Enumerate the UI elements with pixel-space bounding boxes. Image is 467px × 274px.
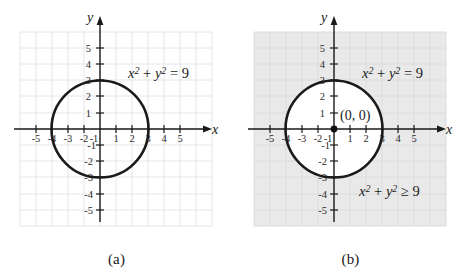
x-tick-label: 5 <box>177 133 182 144</box>
x-tick-label: 1 <box>347 133 352 144</box>
y-axis-label: y <box>319 10 328 25</box>
y-tick-label: 1 <box>320 108 325 119</box>
x-tick-label: 4 <box>395 133 401 144</box>
plot-area-b: -5 -4 -3 -2 -1 1 2 3 4 5 5 4 3 2 1 -1 -2… <box>234 0 467 250</box>
panel-a: -5 -4 -3 -2 -1 1 2 3 4 5 5 4 3 2 1 -1 -2… <box>0 0 233 274</box>
circle-equation-a: x2 + y2 = 9 <box>127 65 189 82</box>
y-tick-label: 2 <box>86 91 91 102</box>
x-tick-label: -3 <box>298 133 307 144</box>
origin-point-marker <box>331 126 338 133</box>
y-tick-label: 4 <box>320 59 326 70</box>
x-tick-label: 2 <box>129 133 134 144</box>
plot-area-a: -5 -4 -3 -2 -1 1 2 3 4 5 5 4 3 2 1 -1 -2… <box>0 0 233 250</box>
x-axis-arrow-a <box>203 126 212 133</box>
y-tick-label: -2 <box>84 156 93 167</box>
origin-point-label: (0, 0) <box>340 108 371 124</box>
x-tick-label: -5 <box>32 133 41 144</box>
x-tick-label: -5 <box>266 133 275 144</box>
x-tick-label: -3 <box>64 133 73 144</box>
y-axis-arrow-b <box>331 16 338 25</box>
x-tick-label: 5 <box>411 133 416 144</box>
figure-two-panel-circle-graphs: -5 -4 -3 -2 -1 1 2 3 4 5 5 4 3 2 1 -1 -2… <box>0 0 467 274</box>
y-axis-arrow-a <box>97 16 104 25</box>
y-tick-label: -1 <box>87 140 96 151</box>
y-tick-label: -4 <box>84 189 93 200</box>
y-tick-label: 1 <box>86 108 91 119</box>
y-tick-label: 5 <box>320 43 325 54</box>
axes-a <box>14 22 206 222</box>
y-tick-label: 4 <box>86 59 92 70</box>
y-tick-label: -2 <box>318 156 327 167</box>
y-tick-label: -5 <box>318 205 327 216</box>
svg-text:x2 + y2 = 9: x2 + y2 = 9 <box>127 65 189 82</box>
panel-caption-b: (b) <box>234 251 467 268</box>
y-axis-label: y <box>85 10 94 25</box>
x-tick-label: 1 <box>113 133 118 144</box>
y-tick-label: -4 <box>318 189 327 200</box>
y-tick-label: 5 <box>86 43 91 54</box>
panel-caption-a: (a) <box>0 251 233 268</box>
x-tick-label: 2 <box>363 133 368 144</box>
y-tick-label: 2 <box>320 91 325 102</box>
panel-b: -5 -4 -3 -2 -1 1 2 3 4 5 5 4 3 2 1 -1 -2… <box>234 0 467 274</box>
x-tick-label: 4 <box>161 133 167 144</box>
y-tick-label: -1 <box>321 140 330 151</box>
x-axis-label: x <box>445 122 453 137</box>
y-tick-label: -5 <box>84 205 93 216</box>
x-axis-label: x <box>211 122 219 137</box>
